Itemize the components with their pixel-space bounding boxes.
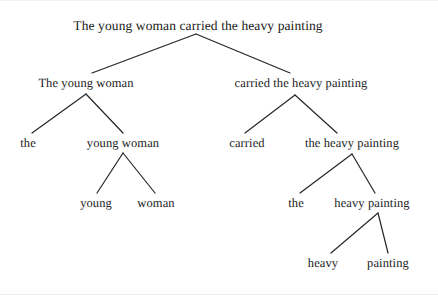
tree-edge-vp-predicate-to-np-object	[295, 95, 337, 133]
tree-node-np-subject: The young woman	[38, 76, 133, 91]
tree-edge-root-to-vp-predicate	[196, 34, 290, 73]
syntax-tree-figure: The young woman carried the heavy painti…	[0, 0, 438, 295]
tree-node-v-carried: carried	[229, 136, 264, 151]
tree-node-nom-young-woman: young woman	[87, 136, 159, 151]
tree-node-adj-young: young	[80, 196, 112, 211]
tree-edge-nom-heavy-paint-to-adj-heavy	[331, 213, 378, 253]
tree-node-det-the-1: the	[20, 136, 36, 151]
tree-edge-nom-young-woman-to-adj-young	[97, 153, 123, 193]
tree-edge-nom-young-woman-to-n-woman	[123, 153, 155, 193]
tree-node-root: The young woman carried the heavy painti…	[73, 18, 322, 34]
tree-node-adj-heavy: heavy	[308, 256, 338, 271]
tree-node-nom-heavy-paint: heavy painting	[334, 196, 409, 211]
tree-node-np-object: the heavy painting	[305, 136, 399, 151]
tree-edge-root-to-np-subject	[92, 34, 196, 73]
tree-node-det-the-2: the	[288, 196, 304, 211]
tree-edge-np-subject-to-det-the-1	[32, 94, 86, 133]
tree-edge-np-object-to-nom-heavy-paint	[352, 154, 375, 193]
tree-node-vp-predicate: carried the heavy painting	[235, 76, 368, 91]
tree-node-n-painting: painting	[367, 256, 409, 271]
tree-edge-vp-predicate-to-v-carried	[245, 95, 295, 133]
tree-edge-np-subject-to-nom-young-woman	[86, 94, 123, 133]
tree-node-n-woman: woman	[137, 196, 174, 211]
tree-edge-nom-heavy-paint-to-n-painting	[378, 213, 388, 253]
tree-edge-np-object-to-det-the-2	[300, 154, 352, 193]
